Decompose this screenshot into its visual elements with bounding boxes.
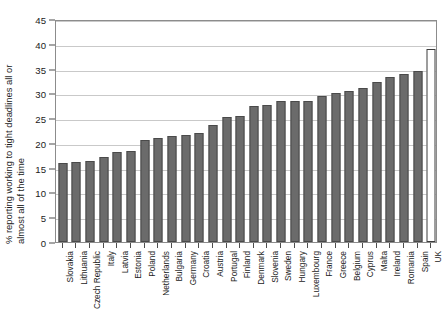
x-tick-mark xyxy=(198,243,199,248)
bar[interactable] xyxy=(236,116,245,242)
x-tick-label-text: Slovakia xyxy=(65,251,75,282)
bar[interactable] xyxy=(181,135,190,243)
bar[interactable] xyxy=(72,162,81,242)
bar-series xyxy=(56,21,436,242)
x-tick-label-text: Denmark xyxy=(256,251,266,285)
bar[interactable] xyxy=(358,88,367,242)
bar-slot xyxy=(411,21,425,242)
x-tick-label-text: Malta xyxy=(379,251,389,271)
bar[interactable] xyxy=(345,91,354,242)
bar[interactable] xyxy=(318,96,327,242)
x-tick-label-text: France xyxy=(324,251,334,277)
x-tick-label: Portugal xyxy=(229,251,239,282)
bar-slot xyxy=(261,21,275,242)
x-tick-label: Belgium xyxy=(352,251,362,281)
bar[interactable] xyxy=(427,49,436,242)
x-tick-label: Hungary xyxy=(297,251,307,282)
x-tick-label-text: Luxembourg xyxy=(311,251,321,297)
x-tick-label-text: Slovenia xyxy=(270,251,280,283)
bar[interactable] xyxy=(413,71,422,243)
x-tick-label: Austria xyxy=(215,251,225,277)
bar-slot xyxy=(274,21,288,242)
x-tick-label: UK xyxy=(433,251,443,263)
x-tick-label: Latvia xyxy=(120,251,130,273)
x-tick-label: Germany xyxy=(188,251,198,285)
bar[interactable] xyxy=(154,138,163,242)
x-tick-label-text: Netherlands xyxy=(161,251,171,296)
bar[interactable] xyxy=(222,117,231,242)
bar[interactable] xyxy=(386,77,395,242)
bar[interactable] xyxy=(167,136,176,243)
bar[interactable] xyxy=(399,74,408,243)
x-tick-label-text: Austria xyxy=(215,251,225,277)
x-tick-mark xyxy=(171,243,172,248)
x-tick-label-text: Italy xyxy=(106,251,116,266)
x-tick-label-text: Belgium xyxy=(352,251,362,281)
x-tick-label-text: Cyprus xyxy=(365,251,375,277)
bar[interactable] xyxy=(263,105,272,242)
x-tick-label: Luxembourg xyxy=(311,251,321,297)
x-tick-mark xyxy=(335,243,336,248)
x-tick-label-text: UK xyxy=(433,251,443,263)
bar-slot xyxy=(124,21,138,242)
bar[interactable] xyxy=(277,101,286,242)
x-tick-label-text: Bulgaria xyxy=(174,251,184,281)
bar[interactable] xyxy=(127,151,136,242)
x-tick-mark xyxy=(144,243,145,248)
bar-slot xyxy=(165,21,179,242)
bar-slot xyxy=(247,21,261,242)
x-tick-mark xyxy=(430,243,431,248)
y-axis-title-line-2: almost all of the time xyxy=(15,158,26,244)
x-tick-label: Slovenia xyxy=(270,251,280,283)
bar-slot xyxy=(138,21,152,242)
bar[interactable] xyxy=(304,101,313,242)
bar-slot xyxy=(302,21,316,242)
x-tick-label: Romania xyxy=(406,251,416,284)
x-tick-label-text: Latvia xyxy=(120,251,130,273)
x-tick-label: Ireland xyxy=(392,251,402,276)
x-tick-label: Poland xyxy=(147,251,157,277)
bar-slot xyxy=(356,21,370,242)
bar[interactable] xyxy=(58,163,67,242)
bar-chart: % reporting working to tight deadlines a… xyxy=(0,0,443,326)
bar[interactable] xyxy=(249,106,258,242)
x-tick-label-text: Hungary xyxy=(297,251,307,282)
x-tick-label: Greece xyxy=(338,251,348,278)
bar-slot xyxy=(220,21,234,242)
bar[interactable] xyxy=(140,140,149,242)
x-tick-mark xyxy=(130,243,131,248)
bar-slot xyxy=(192,21,206,242)
y-axis-title-line-1: % reporting working to tight deadlines a… xyxy=(3,65,14,244)
x-tick-label-text: Sweden xyxy=(283,251,293,281)
x-tick-label: Estonia xyxy=(133,251,143,279)
x-tick-label-text: Portugal xyxy=(229,251,239,282)
bar-slot xyxy=(370,21,384,242)
x-tick-mark xyxy=(253,243,254,248)
bar[interactable] xyxy=(99,157,108,242)
x-tick-label: Cyprus xyxy=(365,251,375,277)
bar[interactable] xyxy=(195,133,204,242)
bar[interactable] xyxy=(290,101,299,242)
x-tick-label: Sweden xyxy=(283,251,293,281)
x-tick-mark xyxy=(239,243,240,248)
bar-slot xyxy=(329,21,343,242)
bar[interactable] xyxy=(208,125,217,242)
x-tick-label: Spain xyxy=(420,251,430,272)
bar-slot xyxy=(233,21,247,242)
x-tick-label: Croatia xyxy=(201,251,211,278)
x-tick-label: Malta xyxy=(379,251,389,271)
bar-slot xyxy=(83,21,97,242)
x-tick-label-text: Lithuania xyxy=(79,251,89,285)
bar[interactable] xyxy=(86,161,95,242)
x-tick-label-text: Czech Republic xyxy=(92,251,102,309)
bar-slot xyxy=(288,21,302,242)
bar-slot xyxy=(397,21,411,242)
bar[interactable] xyxy=(331,93,340,242)
bar[interactable] xyxy=(372,82,381,242)
x-tick-label-text: Spain xyxy=(420,251,430,272)
x-tick-label: Bulgaria xyxy=(174,251,184,281)
x-tick-mark xyxy=(321,243,322,248)
bar-slot xyxy=(179,21,193,242)
x-tick-mark xyxy=(348,243,349,248)
bar[interactable] xyxy=(113,152,122,242)
